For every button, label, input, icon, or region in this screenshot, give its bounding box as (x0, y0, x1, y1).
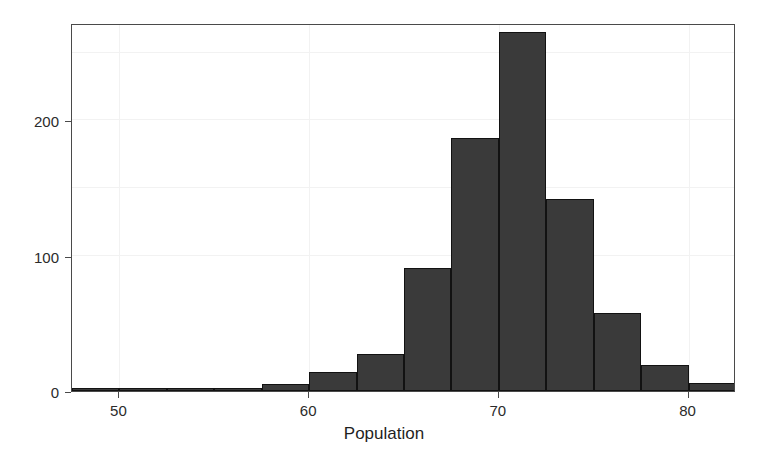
y-tick-label: 100 (0, 250, 59, 265)
x-tick-mark (118, 392, 119, 398)
x-tick-mark (308, 392, 309, 398)
histogram-bar (309, 372, 356, 391)
histogram-bar (594, 313, 641, 391)
histogram-bar (499, 32, 546, 391)
histogram-bar (404, 268, 451, 391)
x-tick-label: 50 (88, 403, 148, 418)
x-axis-title: Population (0, 424, 768, 444)
histogram-bar (451, 138, 498, 391)
histogram-bar (72, 388, 119, 391)
gridline-x-3 (689, 25, 690, 391)
y-tick-mark (65, 392, 71, 393)
histogram-bar (641, 365, 688, 391)
plot-panel (71, 24, 735, 392)
y-tick-mark (65, 121, 71, 122)
gridline-x-1 (309, 25, 310, 391)
x-tick-label: 70 (468, 403, 528, 418)
x-tick-mark (688, 392, 689, 398)
histogram-bar (357, 354, 404, 391)
gridline-x-0 (119, 25, 120, 391)
y-tick-label: 200 (0, 114, 59, 129)
histogram-bar (119, 388, 166, 391)
histogram-bar (546, 199, 593, 391)
y-tick-mark (65, 257, 71, 258)
histogram-bar (214, 388, 261, 391)
histogram-bar (689, 383, 735, 391)
histogram-bar (167, 388, 214, 391)
histogram-bar (262, 384, 309, 391)
x-tick-label: 80 (658, 403, 718, 418)
gridline-y-1 (72, 255, 734, 256)
x-tick-mark (498, 392, 499, 398)
y-tick-label: 0 (0, 385, 59, 400)
histogram-figure: 0100200 50607080 Population (0, 0, 768, 467)
gridline-minor-y-1 (72, 52, 734, 53)
gridline-minor-y-0 (72, 187, 734, 188)
gridline-y-2 (72, 119, 734, 120)
x-tick-label: 60 (278, 403, 338, 418)
